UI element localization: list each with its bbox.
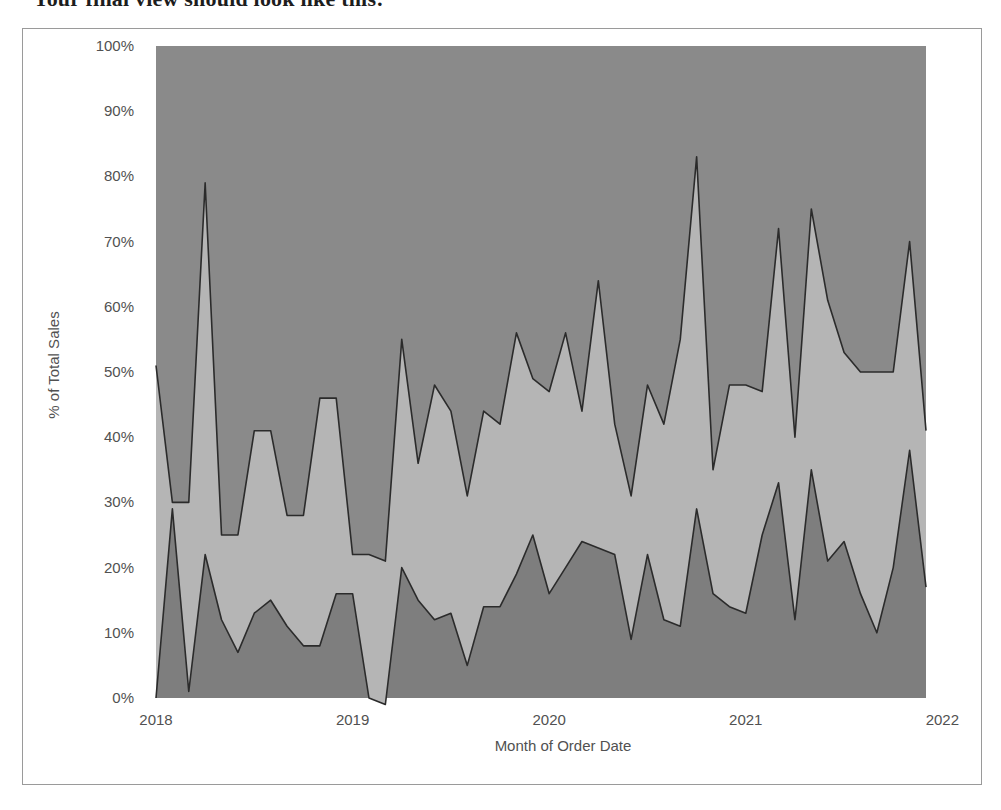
x-tick-label: 2018	[139, 711, 172, 728]
y-tick-label: 0%	[112, 689, 134, 706]
chart-canvas: 0%10%20%30%40%50%60%70%80%90%100% 201820…	[23, 29, 983, 786]
y-axis-title: % of Total Sales	[45, 311, 62, 418]
areas-group	[156, 46, 926, 705]
x-tick-label: 2020	[533, 711, 566, 728]
y-tick-label: 90%	[104, 102, 134, 119]
y-tick-label: 70%	[104, 233, 134, 250]
y-tick-label: 30%	[104, 493, 134, 510]
y-tick-label: 50%	[104, 363, 134, 380]
y-tick-label: 20%	[104, 559, 134, 576]
y-tick-label: 10%	[104, 624, 134, 641]
y-tick-label: 80%	[104, 167, 134, 184]
y-axis-tick-labels: 0%10%20%30%40%50%60%70%80%90%100%	[96, 37, 134, 706]
x-tick-label: 2019	[336, 711, 369, 728]
y-tick-label: 60%	[104, 298, 134, 315]
x-tick-label: 2021	[729, 711, 762, 728]
y-tick-label: 100%	[96, 37, 134, 54]
stacked-area-chart: 0%10%20%30%40%50%60%70%80%90%100% 201820…	[23, 29, 983, 786]
y-tick-label: 40%	[104, 428, 134, 445]
x-axis-tick-labels: 20182019202020212022	[139, 711, 959, 728]
x-axis-title: Month of Order Date	[495, 737, 632, 754]
figure-frame: 0%10%20%30%40%50%60%70%80%90%100% 201820…	[22, 28, 982, 785]
page-caption: Your final view should look like this:	[33, 0, 733, 12]
x-tick-label: 2022	[926, 711, 959, 728]
